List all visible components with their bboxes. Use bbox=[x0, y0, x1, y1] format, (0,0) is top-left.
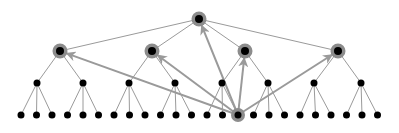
leaf-node bbox=[328, 112, 335, 119]
node-dot bbox=[359, 112, 366, 119]
node-dot bbox=[219, 80, 226, 87]
edge-level2-leaf bbox=[314, 83, 316, 115]
node-dot bbox=[343, 112, 350, 119]
node-dot bbox=[266, 112, 273, 119]
edge-level2-leaf bbox=[347, 83, 362, 115]
leaf-node bbox=[126, 112, 133, 119]
level1-node bbox=[331, 44, 346, 59]
level1-node bbox=[145, 44, 160, 59]
node-dot bbox=[374, 112, 381, 119]
node-dot bbox=[311, 80, 318, 87]
node-dot bbox=[241, 47, 249, 55]
leaf-node bbox=[204, 112, 211, 119]
node-dot bbox=[49, 112, 56, 119]
level2-node bbox=[172, 80, 179, 87]
node-dot bbox=[157, 112, 164, 119]
level2-node bbox=[80, 80, 87, 87]
node-dot bbox=[358, 80, 365, 87]
edge-level2-leaf bbox=[175, 83, 176, 115]
leaf-node bbox=[219, 112, 226, 119]
leaf-node bbox=[266, 112, 273, 119]
leaf-node bbox=[33, 112, 40, 119]
edge-root-level1 bbox=[152, 19, 199, 51]
leaf-node bbox=[49, 112, 56, 119]
node-dot bbox=[111, 112, 118, 119]
edge-level2-leaf bbox=[129, 83, 145, 115]
edge-root-level1 bbox=[60, 19, 199, 51]
edge-level2-leaf bbox=[207, 83, 222, 115]
node-dot bbox=[250, 112, 257, 119]
leaf-node bbox=[95, 112, 102, 119]
leaf-node bbox=[359, 112, 366, 119]
node-dot bbox=[235, 112, 242, 119]
leaf-node bbox=[142, 112, 149, 119]
leaf-node bbox=[188, 112, 195, 119]
leaf-node bbox=[312, 112, 319, 119]
leaf-node bbox=[80, 112, 87, 119]
node-dot bbox=[312, 112, 319, 119]
node-dot bbox=[18, 112, 25, 119]
node-dot bbox=[328, 112, 335, 119]
leaf-node bbox=[18, 112, 25, 119]
node-dot bbox=[204, 112, 211, 119]
edge-level2-leaf bbox=[254, 83, 269, 115]
edge-level2-leaf bbox=[37, 83, 38, 115]
node-dot bbox=[126, 112, 133, 119]
leaf-node bbox=[343, 112, 350, 119]
node-dot bbox=[126, 80, 133, 87]
arrow-leaf-to-ancestor bbox=[67, 53, 238, 115]
highlight-arrows bbox=[67, 25, 333, 115]
tree-diagram bbox=[0, 0, 399, 133]
node-dot bbox=[148, 47, 156, 55]
level2-node bbox=[219, 80, 226, 87]
leaf-node bbox=[297, 112, 304, 119]
level2-node bbox=[126, 80, 133, 87]
edge-level2-leaf bbox=[361, 83, 378, 115]
node-dot bbox=[80, 80, 87, 87]
node-dot bbox=[172, 80, 179, 87]
node-dot bbox=[33, 112, 40, 119]
node-dot bbox=[95, 112, 102, 119]
level2-node bbox=[358, 80, 365, 87]
node-dot bbox=[297, 112, 304, 119]
edge-level2-leaf bbox=[175, 83, 192, 115]
node-dot bbox=[173, 112, 180, 119]
edge-level2-leaf bbox=[68, 83, 84, 115]
node-dot bbox=[80, 112, 87, 119]
edge-level2-leaf bbox=[314, 83, 331, 115]
edge-level2-leaf bbox=[21, 83, 37, 115]
leaf-node bbox=[281, 112, 288, 119]
arrow-leaf-to-ancestor bbox=[238, 55, 332, 115]
leaf-node bbox=[64, 112, 71, 119]
edge-level2-leaf bbox=[37, 83, 52, 115]
highlighted-leaf-node bbox=[231, 108, 245, 122]
edge-root-level1 bbox=[199, 19, 338, 51]
edge-level2-leaf bbox=[300, 83, 314, 115]
node-dot bbox=[34, 80, 41, 87]
node-dot bbox=[56, 47, 64, 55]
leaf-node bbox=[157, 112, 164, 119]
level1-node bbox=[53, 44, 68, 59]
node-dot bbox=[219, 112, 226, 119]
leaf-node bbox=[173, 112, 180, 119]
edge-level2-leaf bbox=[129, 83, 130, 115]
node-dot bbox=[334, 47, 342, 55]
node-dot bbox=[265, 80, 272, 87]
edge-level2-leaf bbox=[268, 83, 269, 115]
level2-node bbox=[265, 80, 272, 87]
level1-node bbox=[238, 44, 253, 59]
edge-level2-leaf bbox=[361, 83, 362, 115]
arrow-leaf-to-ancestor bbox=[238, 58, 244, 115]
node-dot bbox=[281, 112, 288, 119]
level2-node bbox=[311, 80, 318, 87]
node-dot bbox=[195, 15, 203, 23]
edge-level2-leaf bbox=[83, 83, 99, 115]
node-dot bbox=[188, 112, 195, 119]
root-node bbox=[192, 12, 207, 27]
leaf-node bbox=[111, 112, 118, 119]
edge-level2-leaf bbox=[114, 83, 129, 115]
node-dot bbox=[142, 112, 149, 119]
node-dot bbox=[64, 112, 71, 119]
leaf-node bbox=[374, 112, 381, 119]
leaf-node bbox=[250, 112, 257, 119]
